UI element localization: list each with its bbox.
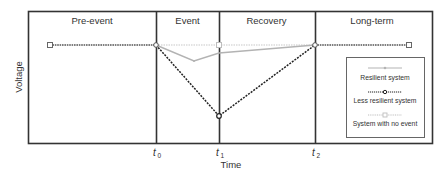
legend-label-no-event: System with no event xyxy=(353,120,418,128)
marker-circle-t2 xyxy=(313,43,318,48)
t2-letter: t xyxy=(312,147,316,158)
resilience-chart: Pre-event Event Recovery Long-term Resil… xyxy=(0,0,445,175)
marker-circle-t0 xyxy=(154,43,159,48)
x-tick-t0: t 0 xyxy=(153,147,162,159)
phase-label-recovery: Recovery xyxy=(246,15,286,26)
marker-circle-t1 xyxy=(217,114,222,119)
legend: Resilient system Less resilient system S… xyxy=(347,58,425,138)
t0-subscript: 0 xyxy=(158,152,162,159)
marker-dot xyxy=(193,60,195,62)
y-axis-label: Voltage xyxy=(13,61,24,93)
legend-label-resilient: Resilient system xyxy=(360,74,410,82)
marker-square-end xyxy=(407,43,412,48)
legend-label-less-resilient: Less resilient system xyxy=(353,97,416,105)
phase-label-pre-event: Pre-event xyxy=(71,15,113,26)
t2-subscript: 2 xyxy=(317,152,321,159)
marker-square xyxy=(217,43,222,48)
phase-label-long-term: Long-term xyxy=(350,15,393,26)
t1-letter: t xyxy=(216,147,220,158)
t1-subscript: 1 xyxy=(221,152,225,159)
x-tick-t2: t 2 xyxy=(312,147,321,159)
x-tick-t1: t 1 xyxy=(216,147,225,159)
marker-square-start xyxy=(48,43,53,48)
phase-label-event: Event xyxy=(175,15,200,26)
x-axis-label: Time xyxy=(221,159,242,170)
t0-letter: t xyxy=(153,147,157,158)
